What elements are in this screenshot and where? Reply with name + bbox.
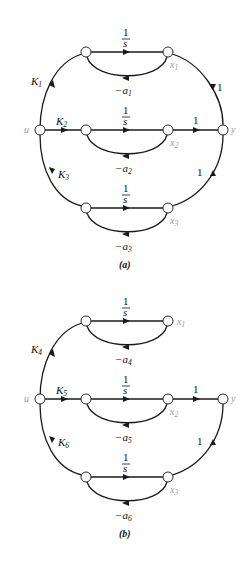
label-y: y xyxy=(230,124,236,135)
label-k3: K3 xyxy=(57,168,69,182)
node-u xyxy=(35,125,45,135)
edge-fb-2 xyxy=(87,135,167,154)
edge-fb-3 xyxy=(87,213,167,232)
label-x1: x1 xyxy=(176,316,185,329)
arrow-int-1 xyxy=(123,49,130,55)
arrow-int-4 xyxy=(123,318,130,324)
edge-fb-5 xyxy=(87,404,167,423)
label-out-1: 1 xyxy=(217,81,223,93)
label-x3: x3 xyxy=(169,215,178,228)
label-x2: x2 xyxy=(169,406,178,419)
arrow-k3 xyxy=(49,167,55,174)
label-a6: −a6 xyxy=(115,509,132,523)
label-integrator-2: 1 s xyxy=(122,104,130,127)
arrow-int-2 xyxy=(123,127,130,133)
edge-fb-6 xyxy=(87,482,167,501)
arrow-k6 xyxy=(49,436,55,443)
label-integrator-5: 1 s xyxy=(122,373,130,396)
label-k2: K2 xyxy=(55,115,67,129)
arrow-out-2 xyxy=(193,127,200,133)
label-k4: K4 xyxy=(30,343,42,357)
label-y: y xyxy=(230,393,236,404)
node-top-left xyxy=(81,47,91,57)
svg-text:s: s xyxy=(123,462,127,474)
label-x3: x3 xyxy=(169,484,178,497)
diagram-b: u y K4 K5 K6 1 s 1 s 1 s −a4 −a5 −a6 x1 … xyxy=(24,295,236,540)
label-out-3: 1 xyxy=(197,166,203,178)
label-a1: −a1 xyxy=(115,84,132,98)
arrow-int-5 xyxy=(123,396,130,402)
node-x1 xyxy=(163,47,173,57)
svg-text:s: s xyxy=(123,193,127,205)
svg-text:s: s xyxy=(123,384,127,396)
arrow-k1 xyxy=(49,80,55,88)
edge-fb-4 xyxy=(87,326,167,345)
svg-text:s: s xyxy=(123,115,127,127)
node-mid-left xyxy=(81,394,91,404)
edge-fb-1 xyxy=(87,57,167,76)
node-mid-left xyxy=(81,125,91,135)
signal-flow-graphs: u y K1 K2 K3 1 s 1 s 1 s −a1 −a2 −a3 x1 … xyxy=(0,0,251,561)
arrow-out-6 xyxy=(210,439,216,445)
arrow-out-5 xyxy=(193,396,200,402)
node-u xyxy=(35,394,45,404)
node-x3 xyxy=(163,203,173,213)
label-integrator-3: 1 s xyxy=(122,182,130,205)
label-k6: K6 xyxy=(57,436,69,450)
node-y xyxy=(218,394,228,404)
label-a4: −a4 xyxy=(115,353,132,367)
node-x1 xyxy=(163,316,173,326)
label-integrator-6: 1 s xyxy=(122,451,130,474)
node-y xyxy=(218,125,228,135)
node-x2 xyxy=(163,394,173,404)
arrow-int-6 xyxy=(123,474,130,480)
diagram-a: u y K1 K2 K3 1 s 1 s 1 s −a1 −a2 −a3 x1 … xyxy=(24,26,236,271)
label-out-5: 1 xyxy=(193,383,199,395)
node-bot-left xyxy=(81,203,91,213)
label-integrator-4: 1 s xyxy=(122,295,130,318)
caption-a: (a) xyxy=(119,259,131,271)
arrow-int-3 xyxy=(123,205,130,211)
svg-text:s: s xyxy=(123,37,127,49)
node-top-left xyxy=(81,316,91,326)
arrow-out-3 xyxy=(210,170,216,176)
label-x1: x1 xyxy=(169,59,178,72)
caption-b: (b) xyxy=(119,528,131,540)
node-x3 xyxy=(163,472,173,482)
label-a3: −a3 xyxy=(115,240,132,254)
label-integrator-1: 1 s xyxy=(122,26,130,49)
label-out-2: 1 xyxy=(193,114,199,126)
node-x2 xyxy=(163,125,173,135)
node-bot-left xyxy=(81,472,91,482)
arrow-k4 xyxy=(49,349,55,357)
label-out-6: 1 xyxy=(197,435,203,447)
label-u: u xyxy=(24,124,29,135)
label-a5: −a5 xyxy=(115,431,132,445)
label-k5: K5 xyxy=(55,384,67,398)
label-k1: K1 xyxy=(30,75,42,89)
label-a2: −a2 xyxy=(115,162,132,176)
svg-text:s: s xyxy=(123,306,127,318)
label-x2: x2 xyxy=(169,137,178,150)
label-u: u xyxy=(24,393,29,404)
arrow-out-1 xyxy=(209,84,216,90)
